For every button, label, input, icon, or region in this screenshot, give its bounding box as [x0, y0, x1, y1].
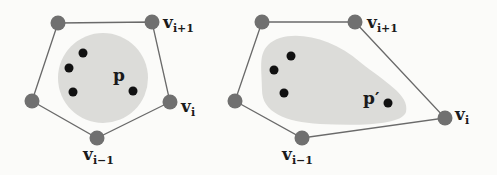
- label-v-cur: vi: [454, 104, 469, 127]
- region-p-prime: [261, 36, 406, 125]
- label-v-cur: vi: [180, 96, 195, 119]
- diagram: p vi+1 vi vi−1 p′ vi+1 vi vi−1: [0, 0, 497, 175]
- right-panel: p′ vi+1 vi vi−1: [228, 12, 470, 167]
- label-v-next: vi+1: [162, 12, 194, 35]
- label-v-prev: vi−1: [82, 144, 114, 167]
- label-v-prev: vi−1: [281, 144, 313, 167]
- label-p: p: [113, 65, 125, 85]
- label-v-next: vi+1: [366, 12, 398, 35]
- region-p: [58, 33, 148, 123]
- label-p-prime: p′: [363, 88, 380, 108]
- left-panel: p vi+1 vi vi−1: [25, 12, 196, 167]
